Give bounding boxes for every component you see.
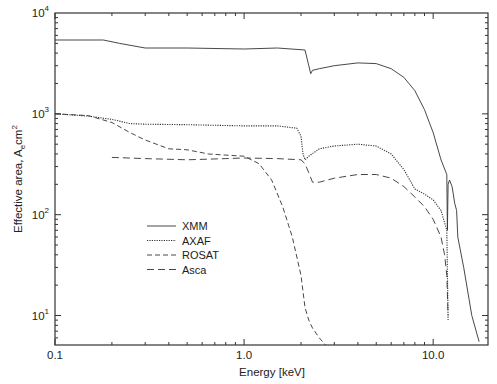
legend-item-axaf: AXAF	[147, 235, 211, 247]
axis-ticks	[55, 13, 488, 345]
svg-text:Effective area, Aecm2: Effective area, Aecm2	[10, 125, 27, 233]
legend-label: Asca	[182, 264, 207, 276]
y-tick-label: 102	[32, 206, 50, 221]
legend-label: XMM	[182, 220, 208, 232]
plot-frame	[55, 13, 488, 345]
y-tick-label: 103	[32, 105, 50, 120]
y-tick-label: 104	[32, 4, 50, 19]
y-axis-label-main: Effective area, A	[12, 149, 24, 233]
axis-tick-labels: 0.11.010.0101102103104	[32, 4, 445, 361]
legend: XMMAXAFROSATAsca	[147, 220, 219, 276]
y-axis-label-sup: 2	[10, 125, 19, 130]
plot-series	[55, 40, 479, 345]
y-tick-label: 101	[32, 307, 50, 322]
x-axis-label: Energy [keV]	[239, 366, 305, 378]
legend-item-xmm: XMM	[147, 220, 208, 232]
legend-item-asca: Asca	[147, 264, 207, 276]
legend-item-rosat: ROSAT	[147, 249, 219, 261]
x-tick-label: 1.0	[236, 349, 252, 361]
series-xmm	[55, 40, 479, 342]
x-tick-label: 0.1	[47, 349, 63, 361]
x-tick-label: 10.0	[422, 349, 444, 361]
y-axis-label-unit: cm	[12, 130, 24, 145]
effective-area-chart: 0.11.010.0101102103104 Energy [keV] Effe…	[0, 0, 497, 384]
legend-label: AXAF	[182, 235, 211, 247]
y-axis-label: Effective area, Aecm2	[10, 125, 27, 233]
legend-label: ROSAT	[182, 249, 219, 261]
series-axaf	[55, 114, 448, 320]
series-asca	[112, 157, 448, 315]
